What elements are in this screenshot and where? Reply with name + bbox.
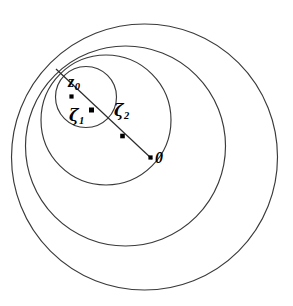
- figure-canvas: z0 ζ1 ζ2 0: [0, 0, 293, 306]
- circle-outer-zero: [12, 24, 278, 290]
- circle-zeta2: [26, 46, 226, 246]
- label-zeta1: ζ1: [69, 108, 84, 127]
- diagram-svg: [0, 0, 293, 306]
- label-zeta1-subscript: 1: [78, 115, 84, 126]
- point-marker-zeta1: [89, 108, 94, 113]
- label-zeta2-subscript: 2: [123, 110, 129, 121]
- point-marker-z0: [69, 94, 73, 98]
- label-origin-base: 0: [155, 149, 163, 166]
- point-marker-zeta2: [120, 134, 125, 139]
- label-z0-subscript: 0: [74, 81, 80, 92]
- label-z0: z0: [68, 74, 80, 93]
- label-zeta2: ζ2: [114, 103, 129, 122]
- point-marker-zero: [148, 155, 152, 159]
- label-origin: 0: [155, 150, 163, 166]
